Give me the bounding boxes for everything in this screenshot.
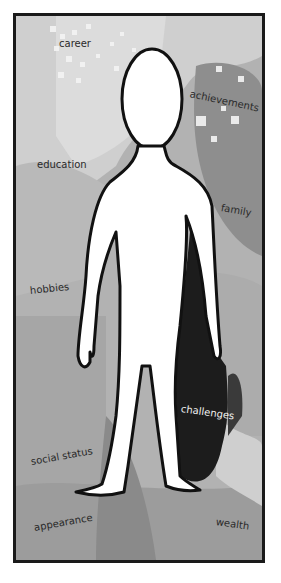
label-career: career [59, 38, 91, 49]
label-education: education [37, 159, 87, 170]
illustration-frame: career achievements education family hob… [13, 13, 265, 563]
